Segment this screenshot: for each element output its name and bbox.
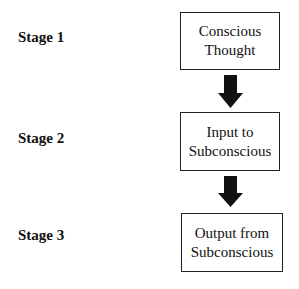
output-from-subconscious-box: Output from Subconscious [181,213,283,272]
box-text-line1: Input to [189,123,272,142]
box-text-line1: Conscious [199,22,262,41]
box-text-line1: Output from [191,224,274,243]
stage-3-label: Stage 3 [18,226,64,244]
box-text-line2: Subconscious [189,142,272,161]
input-to-subconscious-box: Input to Subconscious [180,112,280,171]
conscious-thought-box: Conscious Thought [180,12,280,70]
down-arrow-icon [218,176,243,207]
box-text-line2: Thought [199,41,262,60]
down-arrow-icon [218,75,243,108]
stage-1-label: Stage 1 [18,28,64,46]
box-text-line2: Subconscious [191,243,274,262]
stage-2-label: Stage 2 [18,129,64,147]
